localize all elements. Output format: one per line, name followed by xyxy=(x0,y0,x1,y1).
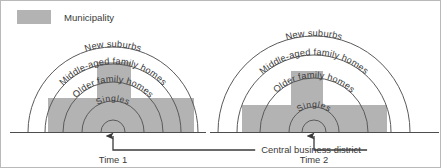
legend-swatch-municipality xyxy=(17,10,51,24)
legend: Municipality xyxy=(17,10,114,24)
zone-label-new-suburbs-time-2: New suburbs xyxy=(284,28,343,42)
cbd-annotation-label: Central business district xyxy=(261,144,361,155)
legend-label-municipality: Municipality xyxy=(64,12,114,23)
cbd-leader-line-time-1 xyxy=(113,136,255,150)
caption-time-1: Time 1 xyxy=(99,154,127,165)
figure-container: Municipality Singles Older famil xyxy=(0,0,441,168)
zone-label-new-suburbs-time-1: New suburbs xyxy=(83,39,143,53)
concentric-zone-diagram: Municipality Singles Older famil xyxy=(1,1,441,168)
diagram-time-1: Singles Older family homes Middle-aged f… xyxy=(10,39,206,165)
caption-time-2: Time 2 xyxy=(300,154,328,165)
central-business-district-annotation: Central business district xyxy=(113,136,367,155)
